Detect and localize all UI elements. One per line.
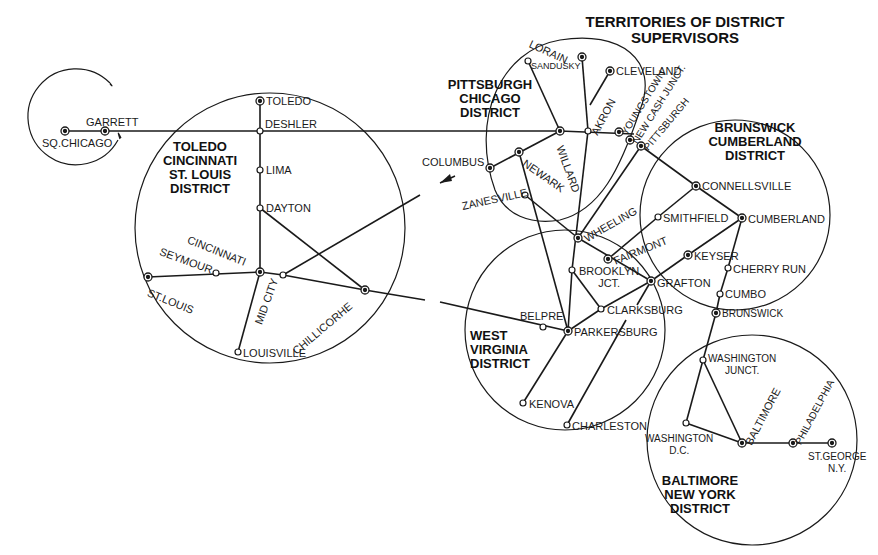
railroad-district-map [0, 0, 878, 555]
station-clarksburg: CLARKSBURG [607, 304, 683, 316]
station-charleston: CHARLESTON [572, 420, 647, 432]
station-parkersburg: PARKERSBURG [574, 326, 658, 338]
station-columbus: COLUMBUS [422, 156, 484, 168]
station-washington-dc: WASHINGTON D.C. [645, 433, 713, 457]
station-st-george: ST.GEORGE N.Y. [808, 451, 866, 475]
station-grafton: GRAFTON [657, 277, 711, 289]
station-cumbo: CUMBO [725, 288, 766, 300]
station-toledo: TOLEDO [266, 95, 311, 107]
station-keyser: KEYSER [694, 250, 739, 262]
station-cherry-run: CHERRY RUN [733, 263, 806, 275]
station-deshler: DESHLER [265, 118, 317, 130]
arrow-heads [440, 174, 452, 183]
station-connellsville: CONNELLSVILLE [702, 180, 791, 192]
district-label-pittsburgh: PITTSBURGH CHICAGO DISTRICT [440, 78, 540, 120]
map-title: TERRITORIES OF DISTRICT SUPERVISORS [585, 14, 785, 46]
district-label-baltimore: BALTIMORE NEW YORK DISTRICT [650, 474, 750, 516]
station-dayton: DAYTON [266, 202, 311, 214]
station-garrett: GARRETT [86, 116, 139, 128]
district-label-brunswick: BRUNSWICK CUMBERLAND DISTRICT [700, 121, 810, 163]
station-sandusky: SANDUSKY [531, 60, 581, 72]
station-smithfield: SMITHFIELD [663, 212, 728, 224]
station-washington-junct: WASHINGTON JUNCT. [708, 353, 776, 377]
station-cumberland: CUMBERLAND [748, 213, 825, 225]
station-belpre: BELPRE [520, 310, 563, 322]
district-label-westvirginia: WEST VIRGINIA DISTRICT [470, 329, 550, 371]
station-lima: LIMA [266, 164, 292, 176]
station-brunswick: BRUNSWICK [722, 308, 783, 320]
station-brooklyn-jct: BROOKLYN JCT. [579, 265, 639, 289]
district-label-toledo: TOLEDO CINCINNATI ST. LOUIS DISTRICT [150, 140, 250, 196]
station-sq-chicago: SQ.CHICAGO [42, 137, 112, 149]
station-kenova: KENOVA [529, 398, 574, 410]
